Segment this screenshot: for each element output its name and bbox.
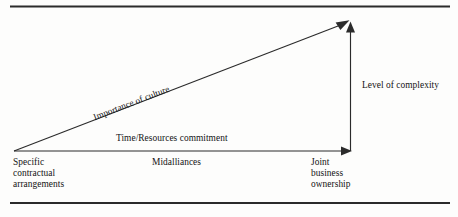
diagram-figure: Importance of culture Time/Resources com… (0, 0, 458, 217)
diagram-canvas (0, 0, 458, 217)
time-resources-commitment-label: Time/Resources commitment (116, 133, 228, 144)
importance-of-culture-arrowhead (336, 20, 350, 30)
stage-label-midalliances: Midalliances (152, 157, 201, 168)
importance-of-culture-arrow-line (14, 24, 345, 152)
stage-label-specific-contractual-arrangements: Specific contractual arrangements (13, 157, 64, 191)
stage-label-joint-business-ownership: Joint business ownership (311, 157, 351, 191)
level-of-complexity-arrowhead (346, 22, 355, 33)
level-of-complexity-label: Level of complexity (362, 80, 439, 91)
